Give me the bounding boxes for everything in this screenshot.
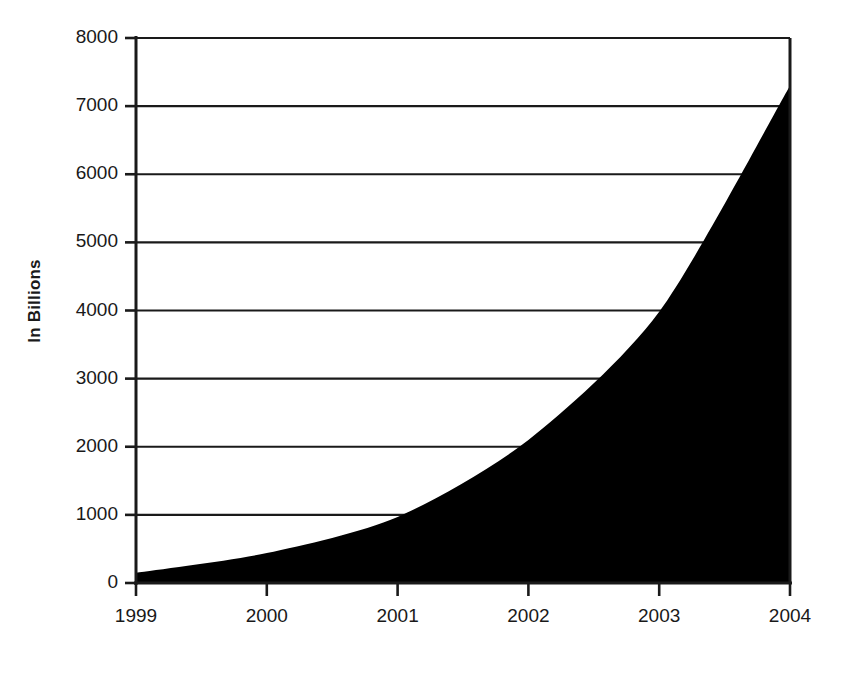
data-area-fill <box>136 86 790 583</box>
y-axis-tick-label: 5000 <box>76 230 118 252</box>
x-axis-tick-label: 2001 <box>358 605 438 627</box>
x-axis-tick-label: 2004 <box>750 605 830 627</box>
y-axis-tick-label: 3000 <box>76 367 118 389</box>
area-chart: In Billions 8000700060005000400030002000… <box>0 0 856 678</box>
x-axis-tick-label: 2000 <box>227 605 307 627</box>
x-axis-tick-label: 2002 <box>488 605 568 627</box>
y-axis-tick-label: 0 <box>107 571 118 593</box>
y-axis-tick-label: 8000 <box>76 26 118 48</box>
chart-plot-area <box>0 0 856 678</box>
y-axis-tick-label: 7000 <box>76 94 118 116</box>
x-axis-tick-label: 2003 <box>619 605 699 627</box>
y-axis-tick-label: 1000 <box>76 503 118 525</box>
x-axis-tick-label: 1999 <box>96 605 176 627</box>
y-axis-tick-label: 6000 <box>76 162 118 184</box>
y-axis-tick-label: 2000 <box>76 435 118 457</box>
y-axis-tick-label: 4000 <box>76 299 118 321</box>
